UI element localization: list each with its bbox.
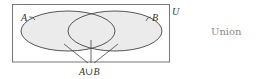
union-label: A∪B (78, 66, 100, 77)
set-a-label: A (20, 12, 28, 23)
universe-label: U (172, 6, 180, 17)
venn-diagram: A B U A∪B (0, 0, 256, 79)
set-b-label: B (152, 12, 158, 23)
caption-union: Union (211, 26, 242, 37)
